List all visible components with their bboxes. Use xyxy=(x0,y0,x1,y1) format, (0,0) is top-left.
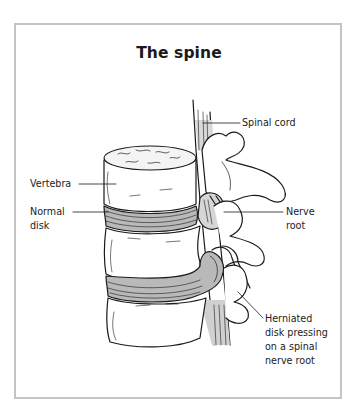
label-herniated-line4: nerve root xyxy=(265,354,315,368)
label-nerve-root-line1: Nerve xyxy=(286,205,315,219)
vertebra-middle xyxy=(105,226,201,281)
spinous-process-top xyxy=(202,132,285,202)
label-normal-disk-line1: Normal xyxy=(30,205,65,219)
label-vertebra: Vertebra xyxy=(30,177,71,191)
vertebra-bottom xyxy=(107,298,206,347)
vertebra-top xyxy=(104,146,196,212)
label-herniated-line1: Herniated xyxy=(265,312,312,326)
spinous-process-lower xyxy=(224,265,248,323)
label-normal-disk-line2: disk xyxy=(30,219,49,233)
label-herniated-line2: disk pressing xyxy=(265,326,328,340)
label-herniated-line3: on a spinal xyxy=(265,340,317,354)
label-nerve-root-line2: root xyxy=(286,219,305,233)
label-spinal-cord: Spinal cord xyxy=(242,116,296,130)
